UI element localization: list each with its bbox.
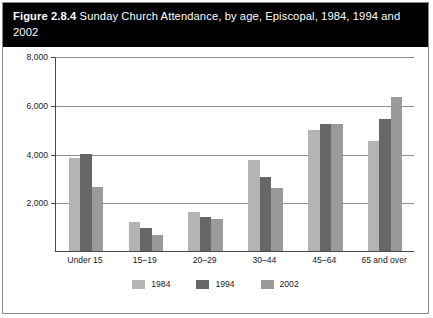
bar-2002-65-and-over [391,97,403,251]
figure-container: Figure 2.8.4 Sunday Church Attendance, b… [0,0,433,318]
legend-label-1984: 1984 [151,279,170,289]
bars-layer [56,57,414,251]
figure-number: Figure 2.8.4 [13,10,76,22]
y-tick-label-8000: 8,000 [26,52,48,62]
x-tick-label-65-and-over: 65 and over [361,255,406,265]
bar-group [368,57,403,251]
bar-1984-Under-15 [69,158,81,251]
bar-1994-45–64 [320,124,332,251]
x-tick-label-45–64: 45–64 [312,255,336,265]
bar-1984-20–29 [188,212,200,251]
bar-2002-20–29 [211,219,223,251]
bar-2002-15–19 [152,235,164,251]
chart-area: 2,0004,0006,0008,000 Under 1515–1920–293… [3,47,428,311]
chart-legend: 198419942002 [3,279,428,289]
legend-swatch-1984 [132,280,145,289]
x-axis-labels: Under 1515–1920–2930–4445–6465 and over [55,255,414,271]
y-tick-label-6000: 6,000 [26,101,48,111]
x-tick-label-20–29: 20–29 [193,255,217,265]
plot-area [55,57,414,252]
y-tick-label-2000: 2,000 [26,198,48,208]
bar-2002-30–44 [271,188,283,251]
bar-group [69,57,104,251]
y-tick-label-4000: 4,000 [26,150,48,160]
legend-item-2002: 2002 [261,279,299,289]
title-band: Figure 2.8.4 Sunday Church Attendance, b… [3,3,428,47]
x-tick-label-15–19: 15–19 [133,255,157,265]
bar-group [308,57,343,251]
figure-title: Figure 2.8.4 Sunday Church Attendance, b… [13,9,418,40]
x-tick-label-Under-15: Under 15 [67,255,102,265]
legend-label-1994: 1994 [215,279,234,289]
bar-group [188,57,223,251]
bar-1994-30–44 [260,177,272,251]
bar-group [248,57,283,251]
bar-2002-45–64 [331,124,343,251]
bar-1984-65-and-over [368,141,380,251]
bar-1984-15–19 [129,222,141,251]
bar-2002-Under-15 [92,187,104,251]
legend-item-1994: 1994 [196,279,234,289]
legend-label-2002: 2002 [280,279,299,289]
bar-group [129,57,164,251]
y-axis-labels: 2,0004,0006,0008,000 [3,57,48,252]
legend-swatch-1994 [196,280,209,289]
bar-1994-15–19 [140,228,152,251]
bar-1994-65-and-over [379,119,391,251]
bar-1984-30–44 [248,160,260,251]
bar-1994-Under-15 [80,154,92,252]
bar-1994-20–29 [200,217,212,251]
legend-swatch-2002 [261,280,274,289]
x-tick-label-30–44: 30–44 [252,255,276,265]
bar-1984-45–64 [308,130,320,251]
legend-item-1984: 1984 [132,279,170,289]
